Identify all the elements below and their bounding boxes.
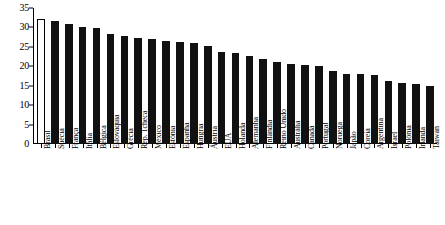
x-axis-tick-mark xyxy=(55,144,56,148)
x-axis-tick-mark xyxy=(180,144,181,148)
bar-slot xyxy=(162,8,170,144)
x-axis-category-label: México xyxy=(155,125,163,149)
x-axis-tick-mark xyxy=(249,144,250,148)
x-axis-category-label: Irlanda xyxy=(419,127,427,149)
x-axis-category-label: França xyxy=(72,128,80,149)
x-axis-tick-mark xyxy=(138,144,139,148)
x-axis-category-label: Canadá xyxy=(308,126,316,149)
bar-chart-figure: 05101520253035 BrasilSuéciaFrançaItáliaB… xyxy=(0,0,445,225)
x-axis-category-label: Grécia xyxy=(127,128,135,149)
x-axis-category-label: Japão xyxy=(350,131,358,149)
x-axis-category-label: Taiwan xyxy=(433,126,441,149)
y-axis-tick-mark xyxy=(29,27,33,28)
x-axis-category-label: Finlândia xyxy=(266,120,274,149)
x-axis-tick-mark xyxy=(124,144,125,148)
x-axis-category-label: Hungria xyxy=(197,123,205,149)
x-axis-tick-mark xyxy=(347,144,348,148)
x-axis-category-label: Argentina xyxy=(377,118,385,149)
x-axis-category-label: Austrália xyxy=(294,121,302,149)
bar-slot xyxy=(357,8,365,144)
y-axis-tick-mark xyxy=(29,46,33,47)
y-axis-tick-mark xyxy=(29,85,33,86)
x-axis-category-label: Polônia xyxy=(405,125,413,149)
bar xyxy=(79,27,87,144)
x-axis-category-label: Itália xyxy=(86,133,94,149)
bar xyxy=(51,21,59,144)
x-axis-tick-mark xyxy=(83,144,84,148)
x-axis-tick-mark xyxy=(305,144,306,148)
bar-slot xyxy=(93,8,101,144)
x-axis-category-label: Portugal xyxy=(322,123,330,149)
x-axis-category-label: Espanha xyxy=(183,123,191,149)
x-axis-tick-mark xyxy=(41,144,42,148)
x-axis-tick-mark xyxy=(374,144,375,148)
x-axis-tick-mark xyxy=(333,144,334,148)
x-axis-category-labels: BrasilSuéciaFrançaItáliaBélgicaEslováqui… xyxy=(34,149,437,209)
x-axis-tick-mark xyxy=(69,144,70,148)
x-axis-tick-mark xyxy=(110,144,111,148)
x-axis-tick-mark xyxy=(194,144,195,148)
x-axis-category-label: Holanda xyxy=(239,123,247,149)
x-axis-category-label: Brasil xyxy=(44,130,52,149)
x-axis-tick-mark xyxy=(208,144,209,148)
y-axis-tick-label: 0 xyxy=(24,139,33,149)
x-axis-tick-mark xyxy=(388,144,389,148)
x-axis-category-label: Áustria xyxy=(211,126,219,149)
y-axis-tick-mark xyxy=(29,124,33,125)
x-axis-tick-mark xyxy=(416,144,417,148)
y-axis-tick-mark xyxy=(29,105,33,106)
x-axis-category-label: Israel xyxy=(391,132,399,149)
x-axis-tick-mark xyxy=(166,144,167,148)
y-axis-tick-mark xyxy=(29,8,33,9)
bar-slot xyxy=(301,8,309,144)
x-axis-tick-mark xyxy=(263,144,264,148)
x-axis-category-label: Eslováquia xyxy=(113,114,121,149)
x-axis-category-label: Estônia xyxy=(169,126,177,149)
x-axis-category-label: Alemanha xyxy=(252,117,260,149)
bar-slot xyxy=(37,8,45,144)
x-axis-tick-mark xyxy=(152,144,153,148)
bar-slot xyxy=(65,8,73,144)
x-axis-tick-mark xyxy=(97,144,98,148)
bar-slot xyxy=(51,8,59,144)
x-axis-category-label: Rep. Tcheca xyxy=(141,111,149,149)
x-axis-tick-mark xyxy=(222,144,223,148)
x-axis-tick-mark xyxy=(291,144,292,148)
x-axis-category-label: Noruega xyxy=(336,122,344,149)
x-axis-category-label: Bélgica xyxy=(100,125,108,149)
x-axis-tick-mark xyxy=(361,144,362,148)
bar-slot xyxy=(204,8,212,144)
x-axis-category-label: Coreia xyxy=(364,128,372,149)
y-axis-tick-mark xyxy=(29,66,33,67)
x-axis-tick-mark xyxy=(236,144,237,148)
bar-slot xyxy=(426,8,434,144)
x-axis-category-label: EUA xyxy=(225,133,233,149)
bar-slot xyxy=(121,8,129,144)
x-axis-tick-mark xyxy=(277,144,278,148)
bar-slot xyxy=(148,8,156,144)
x-axis-tick-mark xyxy=(430,144,431,148)
x-axis-category-label: Reino Unido xyxy=(280,109,288,149)
bar-slot xyxy=(218,8,226,144)
bar-slot xyxy=(79,8,87,144)
x-axis-tick-mark xyxy=(402,144,403,148)
bar xyxy=(65,24,73,144)
bar-slot xyxy=(398,8,406,144)
bar-slot xyxy=(385,8,393,144)
bar xyxy=(37,19,45,145)
bar-slot xyxy=(412,8,420,144)
x-axis-category-label: Suécia xyxy=(58,128,66,149)
x-axis-tick-mark xyxy=(319,144,320,148)
